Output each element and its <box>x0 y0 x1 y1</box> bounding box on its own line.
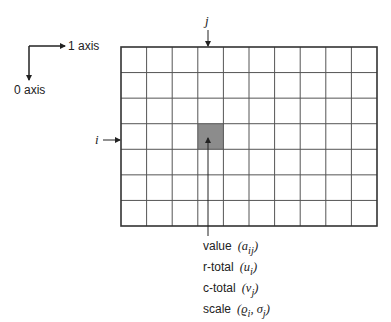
legend-r-total: r-total(ui) <box>203 259 270 280</box>
legend-label: value <box>203 239 232 253</box>
legend-symbol: (aij) <box>238 239 258 253</box>
legend-symbol: (ϱi, σj) <box>237 302 270 316</box>
legend-symbol: (vj) <box>242 281 259 295</box>
row-index-label: i <box>95 133 99 146</box>
legend-symbol: (ui) <box>240 260 258 274</box>
legend-label: r-total <box>203 260 234 274</box>
legend-scale: scale(ϱi, σj) <box>203 301 270 322</box>
legend-c-total: c-total(vj) <box>203 280 270 301</box>
legend-value: value(aij) <box>203 238 270 259</box>
grid <box>121 47 377 226</box>
legend-label: scale <box>203 302 231 316</box>
col-index-label: j <box>205 14 209 27</box>
axis-1-label: 1 axis <box>68 40 99 52</box>
highlighted-cell <box>198 124 224 150</box>
axis-0-label: 0 axis <box>14 84 45 96</box>
axis-indicator <box>29 46 65 80</box>
legend-label: c-total <box>203 281 236 295</box>
cell-legend: value(aij) r-total(ui) c-total(vj) scale… <box>203 238 270 322</box>
